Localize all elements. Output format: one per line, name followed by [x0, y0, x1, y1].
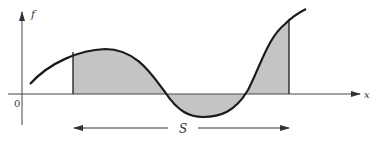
origin-label: 0	[14, 98, 20, 109]
x-axis-label: x	[364, 89, 370, 100]
area-diagram: f x 0 S	[0, 0, 374, 143]
y-axis-label: f	[30, 8, 37, 21]
interval-label: S	[179, 122, 187, 136]
shaded-area	[30, 9, 306, 117]
